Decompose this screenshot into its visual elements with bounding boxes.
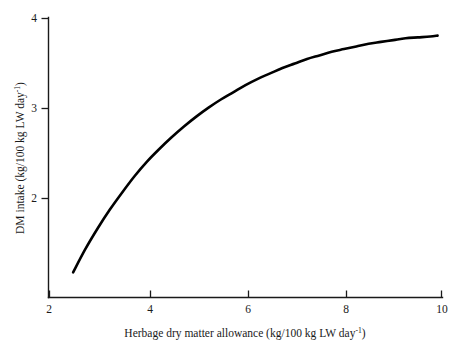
y-tick-label-4: 4 (31, 12, 37, 24)
x-tick-label-10: 10 (436, 303, 448, 315)
data-curve-dm-intake (73, 36, 437, 273)
x-axis-title-tail: ) (362, 327, 366, 340)
x-axis-title: Herbage dry matter allowance (kg/100 kg … (124, 326, 365, 340)
x-tick-label-6: 6 (245, 303, 251, 315)
chart-figure: 4 3 2 2 4 6 8 10 Herbage dry matter allo… (0, 0, 461, 347)
y-axis-title: DM intake (kg/100 kg LW day-1) (13, 82, 27, 234)
x-tick-label-4: 4 (147, 303, 153, 315)
y-tick-label-2: 2 (31, 192, 37, 204)
y-tick-label-3: 3 (31, 102, 37, 114)
y-axis-title-tail: ) (14, 82, 27, 86)
x-axis-title-main: Herbage dry matter allowance (kg/100 kg … (124, 327, 355, 340)
plot-area: 4 3 2 2 4 6 8 10 Herbage dry matter allo… (0, 0, 461, 347)
y-axis-title-main: DM intake (kg/100 kg LW day (14, 92, 27, 234)
x-tick-label-2: 2 (46, 303, 52, 315)
x-tick-label-8: 8 (343, 303, 349, 315)
